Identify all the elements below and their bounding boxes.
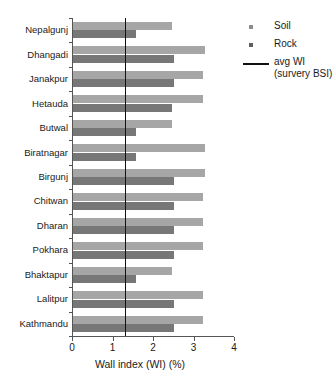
x-axis-tick-label: 1 xyxy=(103,342,123,353)
y-axis-tick xyxy=(69,140,72,141)
x-axis-tick xyxy=(72,337,73,341)
bar-soil-butwal xyxy=(73,120,172,128)
y-axis-tick xyxy=(69,287,72,288)
legend-swatch-rock-icon xyxy=(249,43,253,47)
y-axis-label-9: Pokhara xyxy=(0,245,68,255)
y-axis-tick xyxy=(69,91,72,92)
bar-soil-janakpur xyxy=(73,71,203,79)
y-axis-tick xyxy=(69,67,72,68)
legend: Soil Rock avg WI (survery BSI) xyxy=(243,20,335,86)
y-axis-tick xyxy=(69,312,72,313)
x-axis-tick xyxy=(194,337,195,341)
bar-rock-janakpur xyxy=(73,79,174,87)
bar-soil-birgunj xyxy=(73,169,205,177)
bar-rock-butwal xyxy=(73,128,136,136)
y-axis-label-3: Hetauda xyxy=(0,99,68,109)
bar-rock-biratnagar xyxy=(73,153,136,161)
bar-soil-lalitpur xyxy=(73,291,203,299)
y-axis-tick xyxy=(69,189,72,190)
bar-rock-chitwan xyxy=(73,202,174,210)
legend-label-avg-wi-line1: avg WI xyxy=(274,56,305,67)
y-axis-label-4: Butwal xyxy=(0,123,68,133)
bar-soil-pokhara xyxy=(73,242,203,250)
legend-item-soil: Soil xyxy=(243,20,335,38)
y-axis-tick xyxy=(69,42,72,43)
y-axis-label-10: Bhaktapur xyxy=(0,270,68,280)
x-axis-tick xyxy=(234,337,235,341)
bar-soil-nepalgunj xyxy=(73,22,172,30)
legend-item-avg-wi: avg WI (survery BSI) xyxy=(243,56,335,86)
y-axis-label-1: Dhangadi xyxy=(0,50,68,60)
bar-rock-dhangadi xyxy=(73,55,174,63)
bar-soil-dharan xyxy=(73,218,203,226)
y-axis-tick xyxy=(69,18,72,19)
x-axis-tick-label: 0 xyxy=(62,342,82,353)
x-axis-tick-label: 3 xyxy=(184,342,204,353)
bar-rock-pokhara xyxy=(73,251,174,259)
x-axis-tick xyxy=(113,337,114,341)
x-axis-title: Wall index (WI) (%) xyxy=(40,358,240,370)
y-axis-label-5: Biratnagar xyxy=(0,148,68,158)
bar-rock-dharan xyxy=(73,226,174,234)
y-axis-label-0: Nepalgunj xyxy=(0,25,68,35)
legend-line-swatch-icon xyxy=(243,63,269,65)
legend-label-avg-wi-line2: (survery BSI) xyxy=(274,68,335,80)
bar-rock-lalitpur xyxy=(73,300,174,308)
bar-rock-birgunj xyxy=(73,177,174,185)
avg-wi-reference-line xyxy=(125,18,127,336)
y-axis-tick xyxy=(69,238,72,239)
x-axis-tick xyxy=(153,337,154,341)
bar-soil-biratnagar xyxy=(73,144,205,152)
legend-swatch-soil-icon xyxy=(249,25,253,29)
y-axis-label-12: Kathmandu xyxy=(0,319,68,329)
bar-soil-kathmandu xyxy=(73,316,203,324)
bar-soil-chitwan xyxy=(73,193,203,201)
legend-label-soil: Soil xyxy=(274,20,291,32)
y-axis-label-6: Birgunj xyxy=(0,172,68,182)
y-axis-label-8: Dharan xyxy=(0,221,68,231)
bar-soil-bhaktapur xyxy=(73,267,172,275)
bar-rock-nepalgunj xyxy=(73,30,136,38)
y-axis-tick xyxy=(69,263,72,264)
y-axis-label-7: Chitwan xyxy=(0,196,68,206)
x-axis-tick-label: 2 xyxy=(143,342,163,353)
y-axis-tick xyxy=(69,116,72,117)
bar-chart: Nepalgunj Dhangadi Janakpur Hetauda Butw… xyxy=(0,0,335,387)
y-axis-category-labels: Nepalgunj Dhangadi Janakpur Hetauda Butw… xyxy=(0,18,70,336)
plot-area: 01234 xyxy=(72,18,234,336)
bar-rock-bhaktapur xyxy=(73,275,136,283)
bar-rock-kathmandu xyxy=(73,324,174,332)
y-axis-tick xyxy=(69,165,72,166)
legend-item-rock: Rock xyxy=(243,38,335,56)
y-axis-label-2: Janakpur xyxy=(0,74,68,84)
x-axis-tick-label: 4 xyxy=(224,342,244,353)
bar-soil-dhangadi xyxy=(73,46,205,54)
bar-rock-hetauda xyxy=(73,104,172,112)
bar-soil-hetauda xyxy=(73,95,203,103)
legend-label-rock: Rock xyxy=(274,38,297,50)
legend-label-avg-wi: avg WI (survery BSI) xyxy=(274,56,335,80)
y-axis-label-11: Lalitpur xyxy=(0,294,68,304)
y-axis-tick xyxy=(69,214,72,215)
